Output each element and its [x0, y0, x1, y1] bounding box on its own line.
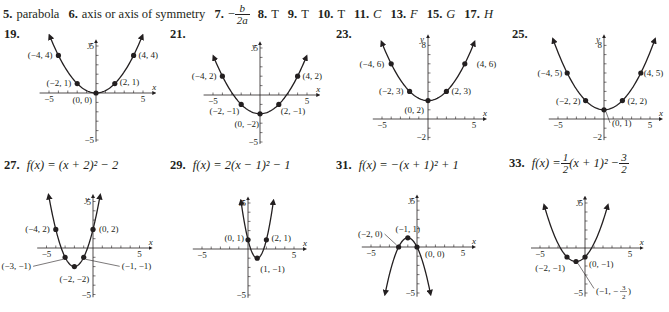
- parabola-curve: [241, 202, 273, 258]
- x-axis-label: x: [639, 237, 644, 247]
- data-point: [63, 255, 68, 260]
- point-label: (4, 2): [303, 71, 323, 81]
- point-label: (−2, −1): [210, 106, 240, 116]
- y-axis-label: y: [84, 194, 89, 204]
- graphs-canvas: −555−5xy(−4, 4)(−2, 1)(0, 0)(2, 1)(4, 4)…: [0, 0, 669, 312]
- point-label: (2, −1): [281, 106, 306, 116]
- data-point: [56, 53, 61, 58]
- data-point: [414, 244, 419, 249]
- y-axis-label: y: [87, 39, 92, 49]
- point-label: (0, 2): [405, 105, 425, 115]
- x-axis-label: x: [315, 84, 320, 94]
- x-axis-label: x: [482, 108, 487, 118]
- y-tick-label: −5: [573, 288, 583, 298]
- data-point: [389, 61, 394, 66]
- point-label: (−2, 0): [358, 229, 383, 239]
- data-point: [638, 70, 643, 75]
- data-point: [573, 259, 578, 264]
- point-label: (0, 0): [73, 95, 93, 105]
- x-tick-label: 5: [292, 250, 297, 260]
- graph-31: −555−5xy(−2, 0)(−1, 1)(0, 0): [358, 194, 476, 298]
- data-point: [93, 90, 98, 95]
- x-axis-label: x: [658, 108, 663, 118]
- x-tick-label: −5: [208, 96, 218, 106]
- graph-27: −555−5xy(−4, 2)(−3, −1)(−2, −2)(−1, −1)(…: [1, 194, 152, 300]
- point-label: (4, 4): [139, 50, 159, 60]
- data-point: [405, 235, 410, 240]
- data-point: [257, 111, 262, 116]
- point-label: (4, 5): [644, 68, 664, 78]
- graph-29: −555−5xy(0, 1)(1, −1)(2, 1): [193, 196, 307, 300]
- point-label: (−1, 1): [396, 224, 421, 234]
- data-point: [239, 102, 244, 107]
- data-point: [112, 81, 117, 86]
- x-tick-label: −5: [535, 249, 545, 259]
- x-tick-label: −5: [44, 94, 54, 104]
- x-tick-label: 5: [472, 120, 477, 130]
- data-point: [462, 61, 467, 66]
- point-label: (0, 1): [225, 233, 245, 243]
- point-label: (−4, 2): [25, 224, 50, 234]
- data-point: [396, 244, 401, 249]
- y-tick-label: −5: [248, 137, 258, 147]
- data-point: [264, 237, 269, 242]
- point-label: (−4, 2): [192, 71, 217, 81]
- y-axis-label: y: [408, 194, 413, 204]
- point-label: (−1, −1): [122, 261, 152, 271]
- data-point: [72, 264, 77, 269]
- y-axis-label: y: [576, 196, 581, 206]
- point-label: (−4, 6): [360, 59, 385, 69]
- x-tick-label: 5: [305, 96, 310, 106]
- x-tick-label: 5: [141, 94, 146, 104]
- data-point: [255, 256, 260, 261]
- x-axis-label: x: [151, 82, 156, 92]
- point-label: (0, 2): [99, 224, 119, 234]
- x-tick-label: −5: [366, 248, 376, 258]
- point-label: (−4, 4): [28, 50, 53, 60]
- point-label: (2, 1): [120, 77, 140, 87]
- point-label: (−2, −1): [535, 263, 565, 273]
- x-tick-label: 5: [137, 249, 142, 259]
- graph-19: −555−5xy(−4, 4)(−2, 1)(0, 0)(2, 1)(4, 4): [28, 37, 158, 145]
- y-tick-label: −5: [236, 290, 246, 300]
- data-point: [620, 98, 625, 103]
- point-label: (0, 0): [425, 249, 445, 259]
- x-axis-label: x: [302, 238, 307, 248]
- x-tick-label: −5: [197, 250, 207, 260]
- data-point: [131, 53, 136, 58]
- svg-text:): ): [628, 286, 631, 296]
- y-axis-label: y: [251, 41, 256, 51]
- x-tick-label: −5: [42, 249, 52, 259]
- data-point: [564, 254, 569, 259]
- point-label: (4, 6): [477, 59, 497, 69]
- graph-23: −558−2xy(−4, 6)(−2, 3)(0, 2)(2, 3)(4, 6): [360, 34, 497, 142]
- graph-21: −555−5xy(−4, 2)(−2, −1)(0, −2)(2, −1)(4,…: [192, 41, 322, 147]
- point-label: (−2, −2): [60, 274, 90, 284]
- data-point: [601, 107, 606, 112]
- data-point: [565, 70, 570, 75]
- y-tick-label: −5: [84, 135, 94, 145]
- x-tick-label: −5: [377, 120, 387, 130]
- y-axis-label: y: [595, 34, 600, 44]
- data-point: [425, 98, 430, 103]
- data-point: [295, 74, 300, 79]
- point-label: (0, 1): [612, 118, 632, 128]
- y-tick-label: −2: [592, 132, 602, 142]
- point-label: (−2, 1): [47, 78, 72, 88]
- x-tick-label: −5: [553, 120, 563, 130]
- data-point: [220, 74, 225, 79]
- data-point: [245, 237, 250, 242]
- x-tick-label: 5: [648, 120, 653, 130]
- data-point: [75, 81, 80, 86]
- point-label: (−2, 2): [556, 96, 581, 106]
- x-tick-label: 5: [461, 248, 466, 258]
- data-point: [407, 89, 412, 94]
- data-point: [81, 255, 86, 260]
- y-axis-label: y: [419, 34, 424, 44]
- data-point: [53, 227, 58, 232]
- graph-25: −558−2xy(−4, 5)(−2, 2)(0, 1)(2, 2)(4, 5): [538, 34, 664, 142]
- y-tick-label: −5: [405, 288, 415, 298]
- y-tick-label: −2: [416, 132, 426, 142]
- point-label: (2, 1): [271, 233, 291, 243]
- svg-text:3: 3: [622, 284, 626, 292]
